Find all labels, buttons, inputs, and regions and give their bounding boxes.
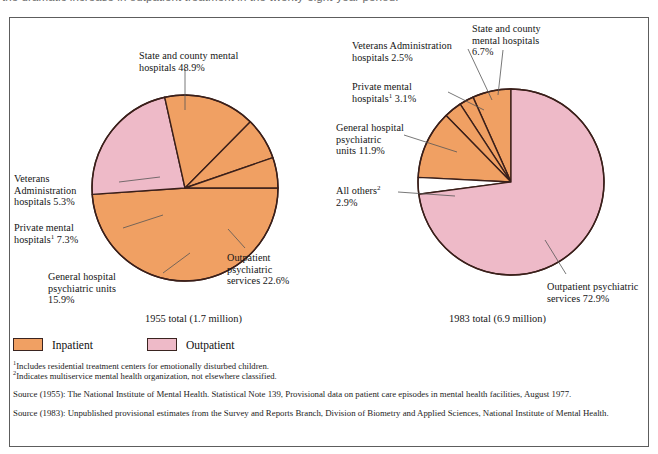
label-right-all-others-line1: All others	[336, 185, 377, 196]
legend-label-outpatient: Outpatient	[186, 339, 235, 351]
label-right-all-others: All others22.9%	[336, 185, 446, 208]
legend-swatch-outpatient	[147, 338, 177, 351]
legend-item-outpatient: Outpatient	[147, 338, 235, 351]
legend-item-inpatient: Inpatient	[13, 338, 93, 351]
label-left-private-line1: Private mental	[14, 222, 74, 233]
label-left-outpatient: Outpatient psychiatric services 22.6%	[227, 252, 337, 287]
label-left-state-county: State and county mental hospitals 48.9%	[139, 50, 289, 73]
left-pie-total: 1955 total (1.7 million)	[145, 313, 242, 324]
footnote-1-text: Includes residential treatment centers f…	[16, 361, 269, 371]
label-left-private: Private mentalhospitals1 7.3%	[14, 222, 134, 245]
label-left-veterans: Veterans Administration hospitals 5.3%	[14, 173, 119, 208]
footnote-2-text: Indicates multiservice mental health org…	[16, 371, 277, 381]
label-right-private: Private mentalhospitals1 3.1%	[352, 81, 472, 104]
label-right-outpatient: Outpatient psychiatric services 72.9%	[547, 281, 658, 304]
label-right-veterans: Veterans Administration hospitals 2.5%	[352, 40, 482, 63]
legend-label-inpatient: Inpatient	[52, 339, 93, 351]
footnote-marker-2: 2	[377, 184, 381, 192]
right-pie-total: 1983 total (6.9 million)	[449, 313, 546, 324]
label-right-private-line2: hospitals1 3.1%	[352, 93, 416, 104]
label-left-general-hospital: General hospital psychiatric units 15.9%	[48, 271, 168, 306]
source-1955: Source (1955): The National Institute of…	[13, 389, 625, 400]
figure-caption-strip: the dramatic increase in outpatient trea…	[0, 0, 658, 14]
legend: Inpatient Outpatient	[13, 338, 234, 351]
label-right-private-line1: Private mental	[352, 81, 412, 92]
footnotes: 1Includes residential treatment centers …	[13, 361, 277, 381]
figure-caption-text: the dramatic increase in outpatient trea…	[2, 0, 398, 3]
source-1983: Source (1983): Unpublished provisional e…	[13, 408, 625, 419]
label-right-all-others-line2: 2.9%	[336, 197, 357, 208]
sources: Source (1955): The National Institute of…	[13, 389, 625, 426]
footnote-2: 2Indicates multiservice mental health or…	[13, 371, 277, 381]
footnote-1: 1Includes residential treatment centers …	[13, 361, 277, 371]
label-left-private-line2: hospitals1 7.3%	[14, 234, 78, 245]
label-right-state-county: State and county mental hospitals 6.7%	[472, 23, 592, 58]
legend-swatch-inpatient	[13, 338, 43, 351]
label-right-general-hospital: General hospital psychiatric units 11.9%	[336, 122, 456, 157]
